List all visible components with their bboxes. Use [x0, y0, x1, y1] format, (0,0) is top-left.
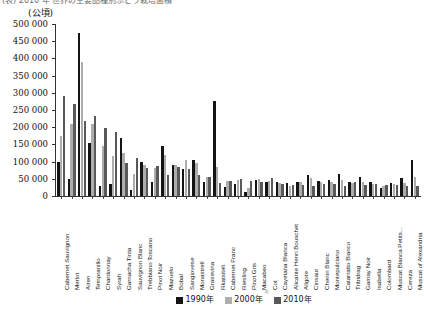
bar-group — [213, 24, 221, 196]
x-axis-tick — [321, 196, 322, 199]
bar-group — [328, 24, 336, 196]
bar — [354, 182, 357, 196]
x-axis-label: Bobal — [178, 274, 184, 290]
x-axis-label: Garnacha Tinta — [126, 248, 132, 290]
x-axis-tick — [217, 196, 218, 199]
x-axis-label: Cayetana Blanca — [282, 243, 288, 290]
x-axis-tick — [269, 196, 270, 199]
y-axis-tick-label: 300 000 — [0, 89, 48, 98]
bar-group — [380, 24, 388, 196]
bar-group — [120, 24, 128, 196]
x-axis-label: Sauvignon Blanc — [137, 244, 143, 290]
x-axis-label: Syrah — [116, 274, 122, 290]
x-axis-label: Alicante Henri Bouschet — [293, 224, 299, 290]
x-axis-tick — [72, 196, 73, 199]
x-axis-tick — [144, 196, 145, 199]
bar-group — [307, 24, 315, 196]
x-axis-label: Muscat Blanca Petits... — [397, 227, 403, 290]
y-axis-tick-label: 150 000 — [0, 140, 48, 149]
bar — [333, 184, 336, 196]
bar-group — [140, 24, 148, 196]
cut-off-heading-text: (表) 2010 年 世界の主要品種別ぶどう栽培面積 — [0, 0, 422, 5]
bar — [208, 177, 211, 196]
x-axis-label: Grasevina — [209, 262, 215, 290]
legend-item: 1990年 — [176, 296, 214, 304]
bar-group — [99, 24, 107, 196]
bar-group — [390, 24, 398, 196]
x-axis-label: Tribidrag — [355, 266, 361, 290]
x-axis-tick — [394, 196, 395, 199]
bar — [146, 168, 149, 196]
bar-group — [172, 24, 180, 196]
bar — [188, 169, 191, 196]
legend-item: 2000年 — [225, 296, 263, 304]
bar-group — [192, 24, 200, 196]
x-axis-tick — [259, 196, 260, 199]
legend-swatch — [225, 297, 232, 304]
x-axis-tick — [373, 196, 374, 199]
x-axis-tick — [134, 196, 135, 199]
bar — [240, 179, 243, 196]
x-axis-label: Riesling — [241, 268, 247, 290]
x-axis-tick — [113, 196, 114, 199]
x-axis-tick — [311, 196, 312, 199]
bar — [104, 128, 107, 196]
x-axis-label: Isabella — [376, 269, 382, 290]
bar-group — [411, 24, 419, 196]
x-axis-tick — [196, 196, 197, 199]
x-axis-label: Catarratto Bianco — [345, 242, 351, 290]
x-axis-label: Cabernet Sauvignon — [64, 234, 70, 290]
y-axis-tick-label: 100 000 — [0, 158, 48, 167]
cut-off-heading: (表) 2010 年 世界の主要品種別ぶどう栽培面積 — [0, 0, 422, 9]
bar-group — [359, 24, 367, 196]
x-axis-tick — [155, 196, 156, 199]
bar — [167, 175, 170, 196]
bar-group — [130, 24, 138, 196]
bar — [136, 158, 139, 196]
x-axis-tick — [342, 196, 343, 199]
x-axis-label: Gamay Noir — [365, 257, 371, 290]
y-axis-tick — [52, 196, 56, 197]
x-axis-tick — [82, 196, 83, 199]
bar-group — [338, 24, 346, 196]
bar-group — [224, 24, 232, 196]
x-axis-label: Muscat of Alexandria — [417, 233, 423, 290]
chart-legend: 1990年2000年2010年 — [176, 296, 312, 304]
bar-group — [88, 24, 96, 196]
x-axis-label: Chenin Blanc — [324, 253, 330, 290]
bar — [73, 104, 76, 196]
bar — [364, 185, 367, 196]
y-axis-tick-label: 50 000 — [0, 175, 48, 184]
x-axis-label: Pinot Noir — [157, 263, 163, 290]
x-axis-label: Tempranillo — [95, 258, 101, 290]
bar-group — [255, 24, 263, 196]
bar — [229, 181, 232, 196]
bar-group — [151, 24, 159, 196]
bar-group — [317, 24, 325, 196]
plot-area — [56, 24, 420, 196]
bar-group — [296, 24, 304, 196]
bar-group — [276, 24, 284, 196]
x-axis-label: Chardonnay — [105, 256, 111, 290]
y-axis-tick-label: 350 000 — [0, 72, 48, 81]
bar-group — [348, 24, 356, 196]
x-axis-tick — [207, 196, 208, 199]
bar-group — [265, 24, 273, 196]
x-axis-tick — [415, 196, 416, 199]
bar-group — [234, 24, 242, 196]
x-axis-tick — [228, 196, 229, 199]
x-axis-tick — [186, 196, 187, 199]
x-axis-tick — [176, 196, 177, 199]
bar — [406, 186, 409, 196]
legend-swatch — [274, 297, 281, 304]
x-axis-label: Airen — [85, 276, 91, 290]
bar — [344, 186, 347, 196]
x-axis-label: Cinsaut — [313, 269, 319, 290]
x-axis-label: Macabeo — [261, 265, 267, 290]
x-axis-tick — [363, 196, 364, 199]
legend-item: 2010年 — [274, 296, 312, 304]
bar-group — [78, 24, 86, 196]
x-axis-tick — [300, 196, 301, 199]
x-axis-tick — [384, 196, 385, 199]
bar — [385, 185, 388, 196]
